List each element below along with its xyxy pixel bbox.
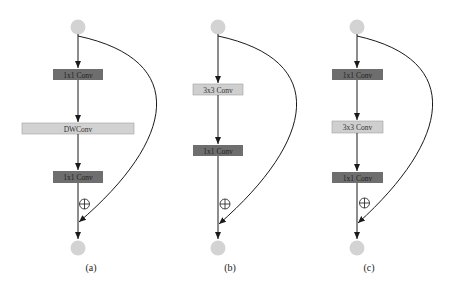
block-label: 1x1 Conv (343, 174, 373, 183)
add-icon (360, 198, 370, 208)
input-node (71, 20, 86, 35)
block-label: 1x1 Conv (203, 147, 233, 156)
input-node (350, 20, 365, 35)
block-label: 1x1 Conv (63, 173, 93, 182)
add-icon (80, 199, 90, 209)
panel-caption: (c) (363, 262, 374, 274)
residual-block-diagram: 1x1 Conv DWConv 1x1 Conv (a) 3x3 Conv 1x… (0, 0, 460, 288)
panel-caption: (b) (224, 262, 236, 274)
input-node (211, 20, 226, 35)
add-icon (220, 199, 230, 209)
panel-a: 1x1 Conv DWConv 1x1 Conv (a) (22, 20, 157, 275)
skip-connection (218, 36, 297, 224)
panel-caption: (a) (85, 262, 96, 274)
block-label: 1x1 Conv (343, 71, 373, 80)
block-label: DWConv (64, 125, 93, 134)
block-label: 3x3 Conv (343, 123, 373, 132)
panel-c: 1x1 Conv 3x3 Conv 1x1 Conv (c) (332, 20, 433, 275)
output-node (71, 241, 86, 256)
block-label: 1x1 Conv (63, 71, 93, 80)
block-label: 3x3 Conv (203, 86, 233, 95)
output-node (211, 241, 226, 256)
panel-b: 3x3 Conv 1x1 Conv (b) (193, 20, 297, 275)
output-node (350, 241, 365, 256)
